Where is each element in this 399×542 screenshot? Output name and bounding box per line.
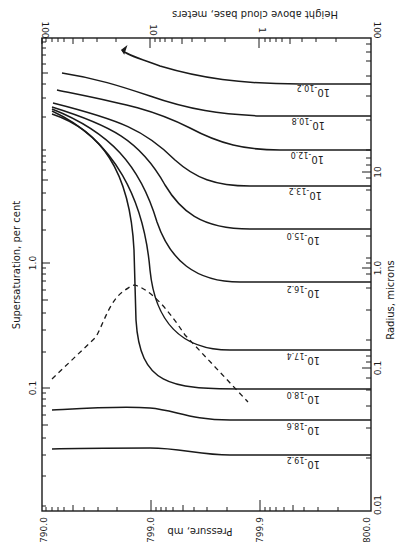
top-axis-ticks	[42, 38, 336, 48]
curve-18-6	[52, 407, 371, 420]
tick-h-right-100: 100	[372, 21, 382, 38]
svg-text:10-10.2: 10-10.2	[297, 83, 330, 98]
svg-text:10-10.8: 10-10.8	[292, 116, 325, 131]
height-tick-labels: 100 10 1 100	[40, 21, 382, 38]
tick-s-10: 1.0	[28, 256, 38, 271]
curve-12-0	[57, 90, 371, 150]
chart: 10-10.2 10-10.8 10-12.0 10-13.2 10-15.0 …	[0, 0, 399, 542]
svg-text:10-19.2: 10-19.2	[287, 455, 320, 470]
tick-p-790: 790.0	[39, 517, 49, 542]
svg-text:10-15.0: 10-15.0	[287, 231, 320, 246]
tick-h-10: 10	[148, 24, 158, 36]
height-axis-label: Height above cloud base, meters	[172, 9, 338, 20]
radius-curves	[52, 47, 371, 455]
tick-p-800: 800.0	[362, 517, 372, 542]
tick-h-100: 100	[40, 21, 50, 38]
tick-r-10b: 10	[373, 166, 383, 178]
pressure-axis-label: Pressure, mb	[167, 526, 232, 537]
curve-16-2	[52, 109, 371, 282]
radius-tick-labels: 0.01 0.1 1.0 10	[373, 166, 383, 515]
tick-p-7999: 799.9	[255, 517, 265, 542]
supersat-axis-label: Supersaturation, per cent	[11, 201, 22, 329]
svg-text:10-13.2: 10-13.2	[289, 186, 322, 201]
curve-19-2	[52, 448, 371, 455]
bottom-axis-ticks	[46, 500, 338, 511]
right-axis-ticks	[362, 44, 371, 458]
svg-text:10-18.0: 10-18.0	[287, 390, 320, 405]
plot-frame	[42, 38, 371, 511]
left-axis-ticks	[42, 42, 50, 506]
tick-r-01: 0.1	[373, 361, 383, 375]
tick-h-1: 1	[257, 27, 267, 33]
tick-s-01: 0.1	[28, 381, 38, 395]
supersat-tick-labels: 0.1 1.0	[28, 256, 38, 396]
svg-text:10-18.6: 10-18.6	[287, 421, 320, 436]
svg-text:10-16.2: 10-16.2	[287, 284, 320, 299]
svg-text:10-17.4: 10-17.4	[287, 351, 320, 366]
tick-r-10: 1.0	[373, 261, 383, 276]
svg-text:10-12.0: 10-12.0	[291, 150, 324, 165]
supersaturation-curve	[52, 285, 248, 402]
tick-p-799: 799.0	[146, 517, 156, 542]
curve-17-4	[52, 111, 371, 350]
radius-axis-label: Radius, microns	[385, 260, 396, 339]
tick-r-001: 0.01	[373, 495, 383, 515]
curve-labels: 10-10.2 10-10.8 10-12.0 10-13.2 10-15.0 …	[287, 83, 330, 470]
curve-10-2	[122, 50, 371, 84]
